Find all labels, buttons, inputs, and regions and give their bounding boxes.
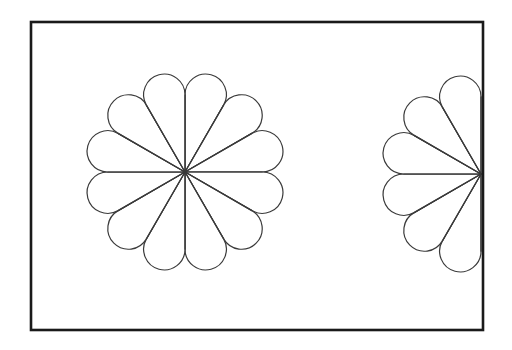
rosette-diagram-canvas [0,0,512,350]
rosette-full-rosette [87,74,283,270]
figure-root [0,0,512,350]
